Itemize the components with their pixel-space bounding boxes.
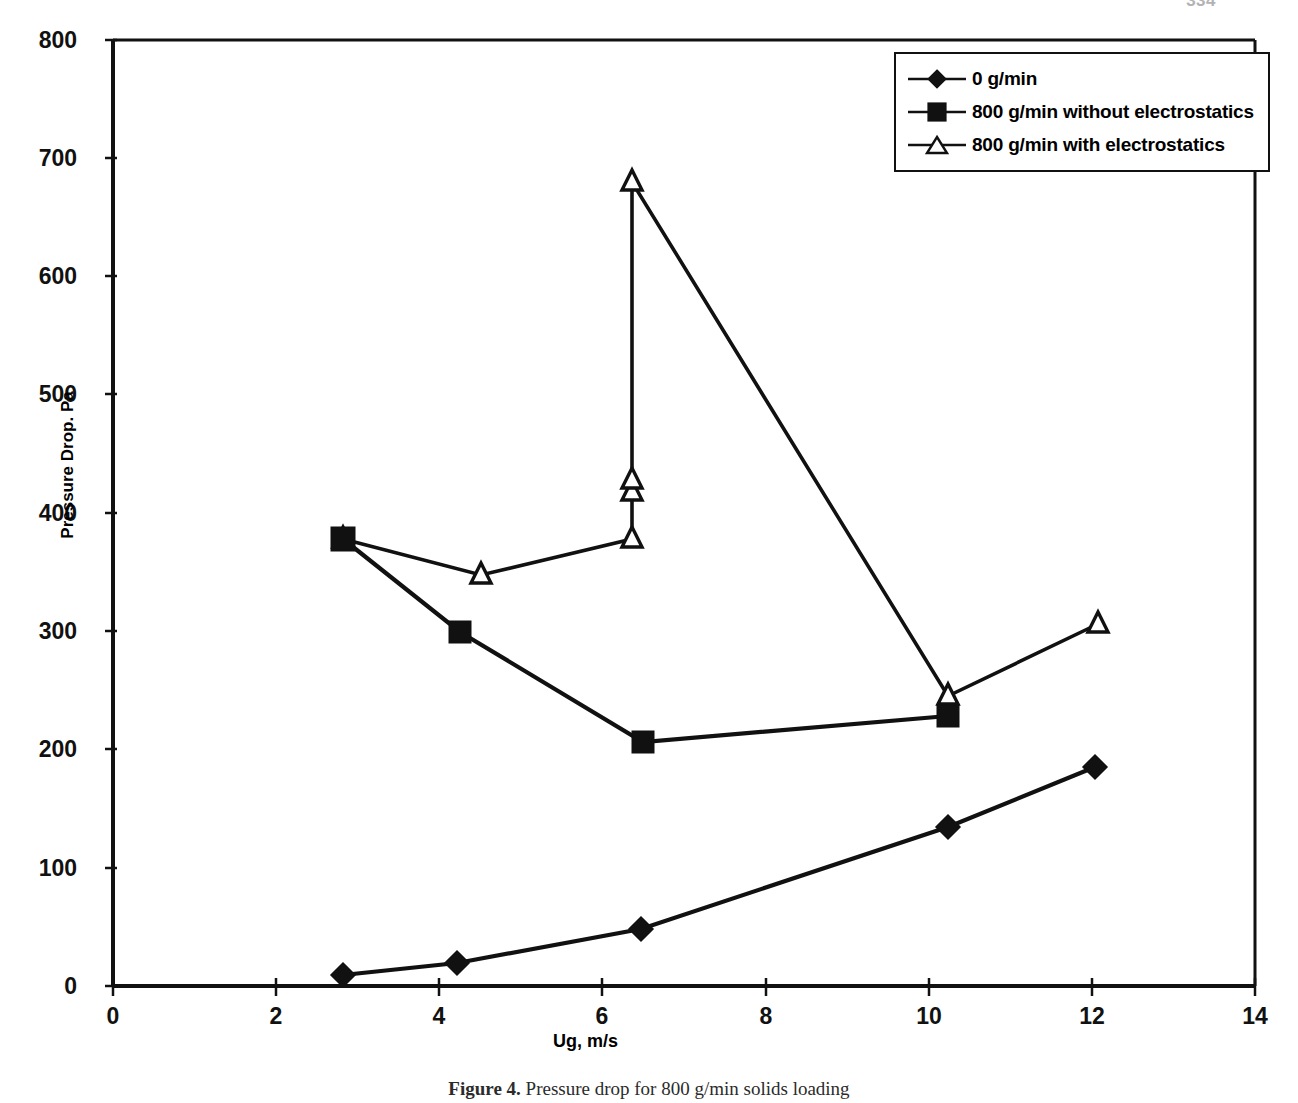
x-tick-label: 0: [83, 1003, 143, 1030]
x-tick-label: 12: [1062, 1003, 1122, 1030]
pressure-drop-chart: 800 700 600 500 400 300 200 100 0 0 2 4 …: [0, 0, 1298, 1040]
open-triangle-icon: [906, 134, 968, 156]
filled-diamond-icon: [906, 68, 968, 90]
x-tick-label: 2: [246, 1003, 306, 1030]
figure-caption-label: Figure 4.: [448, 1078, 520, 1099]
axis-frame: [113, 40, 1255, 986]
x-tick-label: 6: [572, 1003, 632, 1030]
x-tick-label: 8: [736, 1003, 796, 1030]
y-tick-label: 600: [0, 263, 77, 290]
figure-caption-text: Pressure drop for 800 g/min solids loadi…: [526, 1078, 850, 1099]
legend-label: 800 g/min with electrostatics: [972, 134, 1225, 156]
figure-caption: Figure 4. Pressure drop for 800 g/min so…: [0, 1078, 1298, 1100]
y-tick-label: 0: [0, 973, 77, 1000]
y-tick-label: 700: [0, 145, 77, 172]
legend-item-0-gmin: 0 g/min: [906, 62, 1254, 95]
x-tick-label: 10: [899, 1003, 959, 1030]
y-axis-title: Pressure Drop. Pa: [58, 335, 78, 595]
legend-item-800-with-electrostatics: 800 g/min with electrostatics: [906, 128, 1254, 161]
y-tick-label: 200: [0, 736, 77, 763]
legend-item-800-without-electrostatics: 800 g/min without electrostatics: [906, 95, 1254, 128]
x-tick-label: 14: [1225, 1003, 1285, 1030]
filled-square-icon: [906, 101, 968, 123]
x-axis-title: Ug, m/s: [553, 1031, 618, 1052]
figure-page: 334: [0, 0, 1298, 1103]
x-tick-label: 4: [409, 1003, 469, 1030]
y-tick-label: 800: [0, 27, 77, 54]
y-tick-label: 100: [0, 855, 77, 882]
legend-label: 0 g/min: [972, 68, 1037, 90]
series-0-gmin: [331, 755, 1107, 987]
legend-label: 800 g/min without electrostatics: [972, 101, 1254, 123]
chart-legend: 0 g/min 800 g/min without electrostatics…: [894, 52, 1270, 172]
y-tick-label: 300: [0, 618, 77, 645]
